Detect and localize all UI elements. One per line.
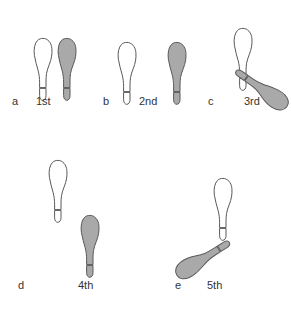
shoe-heel bbox=[124, 92, 130, 104]
shoe-heel bbox=[174, 92, 180, 104]
shoe-heel bbox=[64, 88, 70, 100]
panel-ordinal-3rd: 3rd bbox=[244, 95, 260, 107]
panel-ordinal-5th: 5th bbox=[207, 279, 222, 291]
panel-ordinal-4th: 4th bbox=[78, 279, 93, 291]
panel-ordinal-1st: 1st bbox=[36, 95, 51, 107]
panel-letter-b: b bbox=[103, 95, 109, 107]
shoe-heel bbox=[55, 210, 61, 222]
panel-letter-a: a bbox=[12, 95, 19, 107]
footprint-diagram-canvas: a1stb2ndc3rdd4the5th bbox=[0, 0, 291, 309]
panel-letter-d: d bbox=[18, 279, 24, 291]
footprint-figure: a1stb2ndc3rdd4the5th bbox=[0, 0, 291, 309]
panel-ordinal-2nd: 2nd bbox=[139, 95, 157, 107]
panel-letter-c: c bbox=[208, 95, 214, 107]
panel-letter-e: e bbox=[175, 279, 181, 291]
shoe-heel bbox=[87, 265, 93, 277]
shoe-heel bbox=[220, 228, 226, 240]
